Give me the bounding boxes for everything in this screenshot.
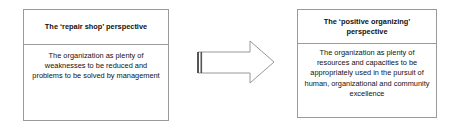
repair-shop-description: The organization as plenty of weaknesses… — [24, 45, 168, 82]
right-arrow-icon — [195, 38, 277, 86]
repair-shop-perspective-box: The ‘repair shop’ perspective The organi… — [23, 9, 169, 121]
repair-shop-title: The ‘repair shop’ perspective — [24, 10, 168, 45]
positive-organizing-description: The organization as plenty of resources … — [298, 44, 436, 99]
positive-organizing-perspective-box: The ‘positive organizing’ perspective Th… — [297, 9, 437, 118]
positive-organizing-title: The ‘positive organizing’ perspective — [298, 10, 436, 44]
